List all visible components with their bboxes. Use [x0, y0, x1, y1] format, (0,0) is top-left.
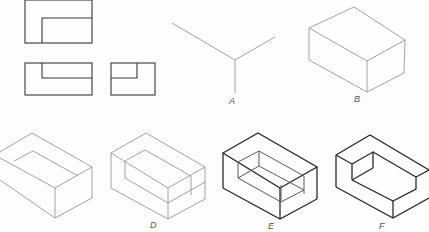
label-d: D	[150, 220, 157, 230]
label-a: A	[229, 96, 235, 106]
step-a-axes	[172, 23, 275, 93]
side-view	[111, 63, 155, 95]
top-view	[25, 0, 92, 43]
step-f-finished	[336, 135, 429, 218]
label-e: E	[268, 221, 274, 231]
drawing-svg	[0, 0, 429, 232]
front-view	[25, 63, 92, 95]
step-c-notch-top	[0, 133, 92, 218]
label-f: F	[379, 221, 385, 231]
label-b: B	[354, 94, 360, 104]
isometric-construction-figure: A B D E F	[0, 0, 429, 232]
step-b-box	[309, 7, 405, 92]
step-e-notch-construction	[223, 133, 317, 219]
step-d-notch-front	[111, 133, 205, 219]
